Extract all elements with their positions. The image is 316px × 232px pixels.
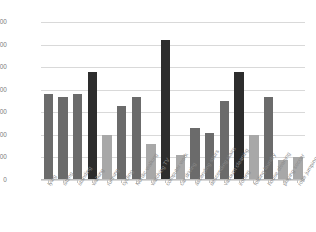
x-label-slot: rope jumping bbox=[290, 184, 305, 232]
bar[interactable] bbox=[132, 97, 142, 181]
x-label-slot: car driving bbox=[173, 184, 188, 232]
x-label-slot: folding laundry bbox=[246, 184, 261, 232]
bar[interactable] bbox=[58, 97, 68, 181]
bar-slot bbox=[41, 22, 56, 180]
x-axis-tick-labels: lyingsittingstandingwalkingrunningcyclin… bbox=[41, 184, 305, 232]
x-label-slot: watching TV bbox=[144, 184, 159, 232]
x-label-slot: ironing bbox=[232, 184, 247, 232]
y-axis-tick-label: 2500 bbox=[0, 64, 7, 70]
x-label-slot: sitting bbox=[56, 184, 71, 232]
bar-slot bbox=[70, 22, 85, 180]
y-axis-tick-label: 3500 bbox=[0, 19, 7, 25]
plot-area bbox=[41, 22, 305, 180]
x-label-slot: computer work bbox=[158, 184, 173, 232]
x-label-slot: Nordic walking bbox=[129, 184, 144, 232]
bar-slot bbox=[246, 22, 261, 180]
x-label-slot: descending stairs bbox=[202, 184, 217, 232]
y-axis-tick-label: 2000 bbox=[0, 87, 7, 93]
x-label-slot: standing bbox=[70, 184, 85, 232]
x-label-slot: lying bbox=[41, 184, 56, 232]
bar-slot bbox=[56, 22, 71, 180]
bar-slot bbox=[129, 22, 144, 180]
x-label-slot: cycling bbox=[114, 184, 129, 232]
x-label-slot: house cleaning bbox=[261, 184, 276, 232]
x-label-slot: playing soccer bbox=[276, 184, 291, 232]
x-label-slot: vacuum cleaning bbox=[217, 184, 232, 232]
x-label-slot: walking bbox=[85, 184, 100, 232]
y-axis-tick-label: 0 bbox=[0, 177, 7, 183]
bar-slot bbox=[85, 22, 100, 180]
bar[interactable] bbox=[73, 94, 83, 180]
bar-chart: 0500100015002000250030003500 lyingsittin… bbox=[0, 0, 316, 232]
y-axis-tick-label: 3000 bbox=[0, 42, 7, 48]
y-axis-tick-label: 500 bbox=[0, 154, 7, 160]
x-label-slot: ascending stairs bbox=[188, 184, 203, 232]
bar-slot bbox=[114, 22, 129, 180]
bar[interactable] bbox=[88, 72, 98, 180]
bar[interactable] bbox=[44, 94, 54, 180]
y-axis-tick-label: 1000 bbox=[0, 132, 7, 138]
y-axis-tick-label: 1500 bbox=[0, 109, 7, 115]
bar-slot bbox=[100, 22, 115, 180]
bar-series bbox=[41, 22, 305, 180]
x-label-slot: running bbox=[100, 184, 115, 232]
bar-slot bbox=[188, 22, 203, 180]
